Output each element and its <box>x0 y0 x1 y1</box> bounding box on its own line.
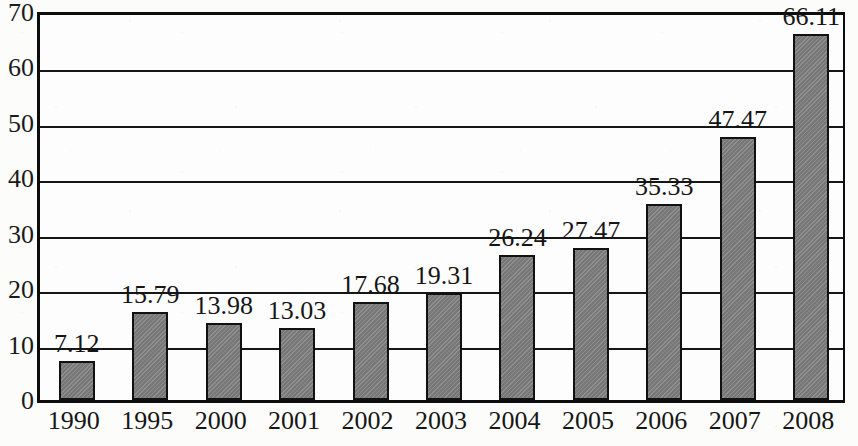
bar-value-label: 7.12 <box>54 331 100 357</box>
x-axis-tick-label: 2005 <box>562 408 614 434</box>
bar-value-label: 19.31 <box>415 263 474 289</box>
x-axis-tick-label: 2004 <box>488 408 540 434</box>
bar[interactable] <box>499 255 535 400</box>
bar-value-label: 13.98 <box>194 293 253 319</box>
bar-value-label: 17.68 <box>341 272 400 298</box>
bar-slot: 19.31 <box>407 15 480 400</box>
bar-slot: 13.98 <box>187 15 260 400</box>
bar-value-label: 26.24 <box>488 225 547 251</box>
x-axis: 1990199520002001200220032004200520062007… <box>37 408 845 446</box>
bar-slot: 13.03 <box>260 15 333 400</box>
y-axis-tick-label: 40 <box>2 166 34 192</box>
bar-chart: 010203040506070 7.1215.7913.9813.0317.68… <box>0 0 858 446</box>
y-axis: 010203040506070 <box>0 0 34 446</box>
y-axis-tick-label: 20 <box>2 277 34 303</box>
y-axis-tick-label: 70 <box>2 0 34 26</box>
bar-slot: 66.11 <box>775 15 848 400</box>
x-axis-tick-label: 2000 <box>195 408 247 434</box>
y-axis-tick-label: 50 <box>2 111 34 137</box>
bar[interactable] <box>132 312 168 400</box>
bar-slot: 27.47 <box>554 15 627 400</box>
plot-area: 7.1215.7913.9813.0317.6819.3126.2427.473… <box>37 12 845 403</box>
y-axis-tick-label: 60 <box>2 55 34 81</box>
bar[interactable] <box>59 361 95 400</box>
bar-value-label: 47.47 <box>709 107 768 133</box>
bar-slot: 17.68 <box>334 15 407 400</box>
bar-value-label: 35.33 <box>635 174 694 200</box>
bar-slot: 26.24 <box>481 15 554 400</box>
bar[interactable] <box>646 204 682 400</box>
x-axis-tick-label: 1990 <box>48 408 100 434</box>
bar[interactable] <box>426 293 462 400</box>
bar[interactable] <box>720 137 756 400</box>
x-axis-tick-label: 1995 <box>121 408 173 434</box>
x-axis-tick-label: 2003 <box>415 408 467 434</box>
bar-value-label: 27.47 <box>562 218 621 244</box>
bar[interactable] <box>206 323 242 400</box>
bar-slot: 15.79 <box>113 15 186 400</box>
x-axis-tick-label: 2006 <box>635 408 687 434</box>
x-axis-tick-label: 2001 <box>268 408 320 434</box>
x-axis-tick-label: 2008 <box>782 408 834 434</box>
bar-slot: 35.33 <box>628 15 701 400</box>
x-axis-tick-label: 2002 <box>342 408 394 434</box>
y-axis-tick-label: 30 <box>2 222 34 248</box>
bar-slot: 7.12 <box>40 15 113 400</box>
y-axis-tick-label: 10 <box>2 333 34 359</box>
y-axis-tick-label: 0 <box>2 388 34 414</box>
bar-value-label: 66.11 <box>782 4 840 30</box>
bar[interactable] <box>279 328 315 400</box>
bar[interactable] <box>353 302 389 400</box>
bar[interactable] <box>793 34 829 400</box>
x-axis-tick-label: 2007 <box>709 408 761 434</box>
bar-value-label: 13.03 <box>268 298 327 324</box>
bar[interactable] <box>573 248 609 400</box>
bar-slot: 47.47 <box>701 15 774 400</box>
bar-value-label: 15.79 <box>121 282 180 308</box>
